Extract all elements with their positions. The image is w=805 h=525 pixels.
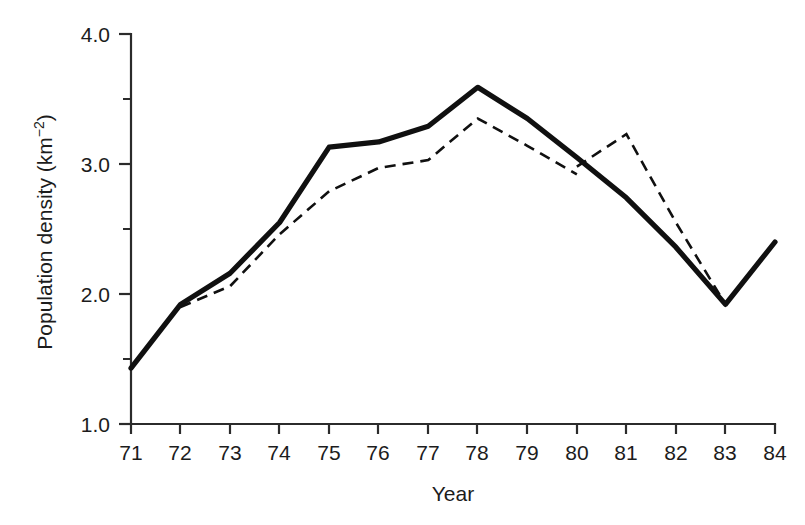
x-tick-label-79: 79	[515, 441, 538, 464]
x-tick-label-77: 77	[416, 441, 439, 464]
x-tick-label-78: 78	[465, 441, 488, 464]
chart-figure: Population density (km−2) 1.0 2.0 3.0 4.…	[0, 0, 805, 525]
x-tick-label-75: 75	[317, 441, 340, 464]
series-dashed-line	[181, 119, 577, 308]
x-tick-label-84: 84	[763, 441, 787, 464]
x-tick-label-82: 82	[664, 441, 687, 464]
y-axis-title: Population density (km−2)	[31, 114, 56, 349]
y-tick-label-3: 3.0	[81, 153, 110, 176]
x-axis-title: Year	[432, 482, 474, 505]
line-chart: Population density (km−2) 1.0 2.0 3.0 4.…	[0, 0, 805, 525]
x-tick-label-81: 81	[614, 441, 637, 464]
x-tick-label-74: 74	[267, 441, 291, 464]
y-tick-label-4: 4.0	[81, 23, 110, 46]
y-axis-title-exponent: −2	[31, 121, 47, 137]
x-tick-label-76: 76	[366, 441, 389, 464]
y-tick-label-1: 1.0	[81, 413, 110, 436]
x-tick-label-80: 80	[565, 441, 588, 464]
x-axis-ticks	[131, 424, 775, 434]
y-axis-title-base: Population density (km	[33, 137, 56, 349]
x-tick-label-71: 71	[119, 441, 142, 464]
y-tick-label-2: 2.0	[81, 283, 110, 306]
x-tick-label-72: 72	[168, 441, 191, 464]
y-axis-title-close: )	[33, 114, 56, 121]
x-tick-label-83: 83	[713, 441, 736, 464]
y-axis-minor-ticks	[123, 99, 131, 359]
x-tick-label-73: 73	[218, 441, 241, 464]
